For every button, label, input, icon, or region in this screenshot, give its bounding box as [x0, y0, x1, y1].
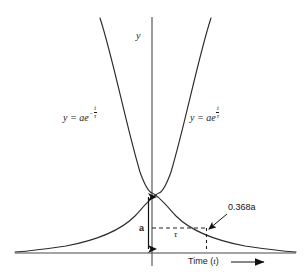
- growth-exponent-denominator: τ: [216, 113, 219, 120]
- amplitude-label: a: [139, 224, 144, 233]
- decay-value-leader-line: [209, 214, 227, 229]
- decay-curve: [100, 18, 296, 252]
- decay-exponent-fraction: tτ: [94, 105, 97, 120]
- growth-exponent-fraction: tτ: [216, 105, 219, 120]
- y-axis-label: y: [136, 31, 140, 41]
- decay-equation-lhs: y = ae: [63, 112, 89, 123]
- decay-exponent-sign: −: [89, 111, 93, 118]
- x-axis-label-prefix: Time (: [188, 256, 213, 266]
- x-axis-label: Time (t): [188, 257, 219, 266]
- growth-curve-equation: y = aetτ: [190, 105, 219, 123]
- decay-exponent-denominator: τ: [94, 113, 97, 120]
- exponential-curves-figure: y y = ae−tτ y = aetτ a τ 0.368a Time (t): [0, 0, 307, 279]
- decay-value-label: 0.368a: [228, 203, 256, 212]
- growth-curve: [15, 18, 211, 252]
- x-axis-label-suffix: ): [216, 256, 219, 266]
- growth-equation-lhs: y = ae: [190, 112, 216, 123]
- figure-canvas: [0, 0, 307, 279]
- time-constant-label: τ: [174, 230, 177, 239]
- decay-curve-equation: y = ae−tτ: [63, 105, 97, 123]
